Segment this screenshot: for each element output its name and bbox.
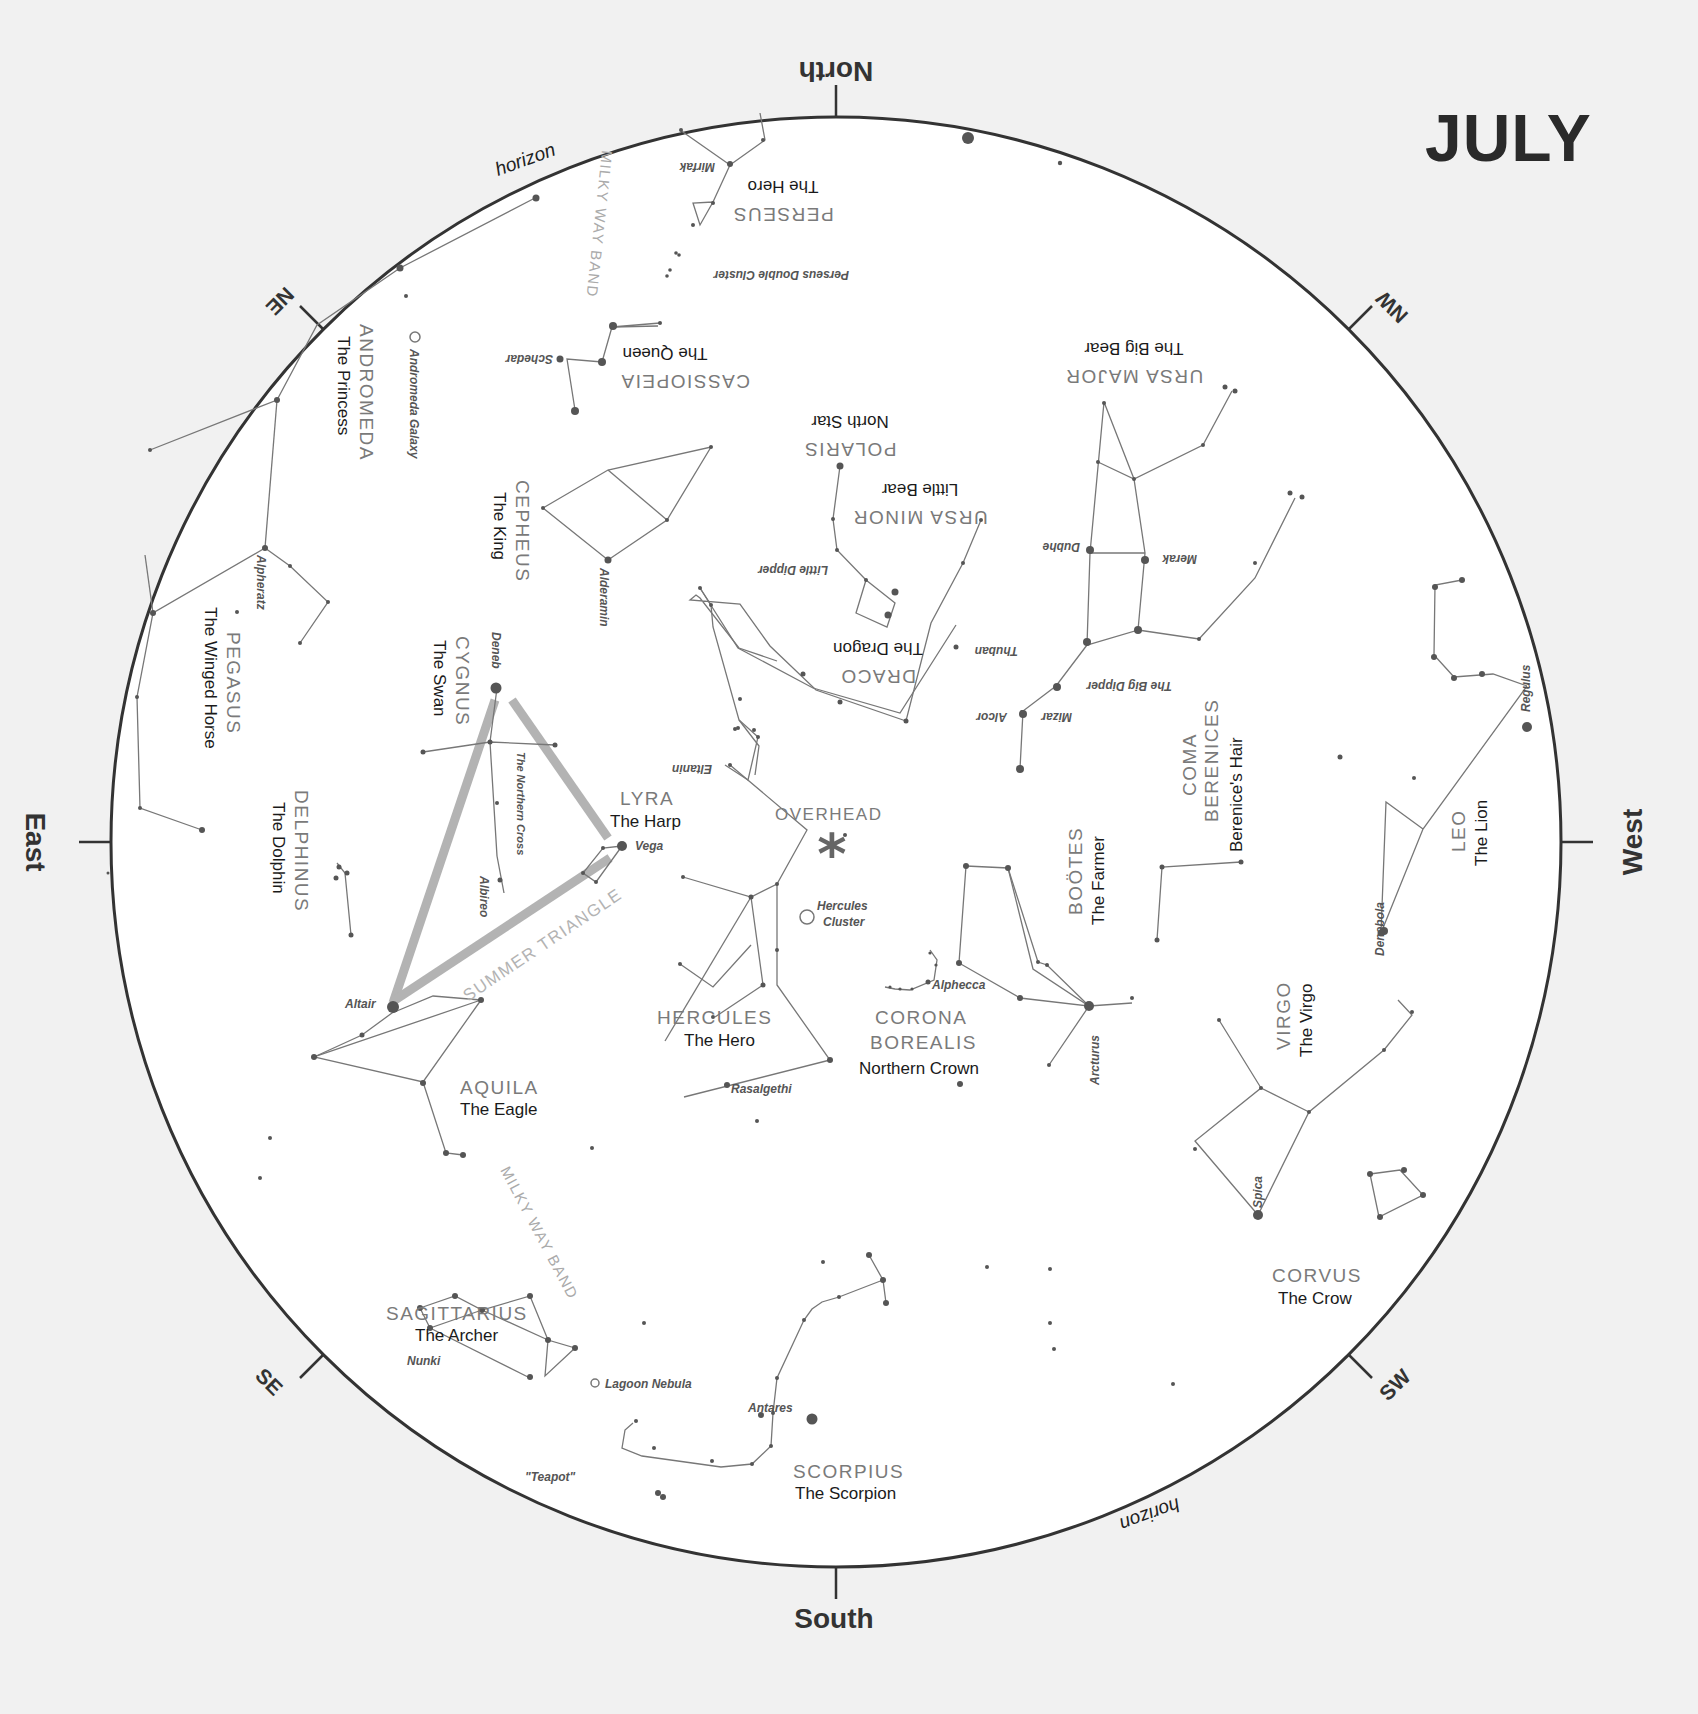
horizon-label-north: horizon (492, 139, 558, 180)
star-label-vega: Vega (635, 839, 664, 853)
month-title: JULY (1425, 100, 1592, 176)
star-label-eltanin: Eltanin (672, 762, 712, 776)
draco-name: DRACO (840, 666, 916, 687)
leo-name: LEO (1448, 809, 1469, 852)
deep-sky-andromeda-galaxy: Andromeda Galaxy (407, 348, 421, 460)
direction-nw: NW (1371, 287, 1412, 328)
corvus-name: CORVUS (1272, 1266, 1362, 1285)
ursa-minor-name: URSA MINOR (852, 507, 987, 528)
sagittarius-name: SAGITTARIUS (386, 1304, 528, 1323)
corvus-sub: The Crow (1278, 1290, 1352, 1307)
asterism-big-dipper: The Big Dipper (1085, 679, 1172, 693)
cygnus-sub: The Swan (430, 640, 449, 717)
star-label-regulus: Regulus (1519, 664, 1533, 712)
star-chart: MILKY WAY BAND MILKY WAY BAND SUMMER TRI… (0, 0, 1698, 1714)
bootes-name: BOÖTES (1065, 827, 1086, 915)
lyra-sub: The Harp (610, 813, 681, 830)
deep-sky-lagoon-nebula: Lagoon Nebula (605, 1377, 692, 1391)
deep-sky-perseus-double-cluster: Perseus Double Cluster (712, 268, 849, 282)
hercules-name: HERCULES (657, 1008, 772, 1027)
ursa-minor-sub: Little Bear (881, 480, 958, 499)
star-label-dubhe: Dubhe (1042, 540, 1080, 554)
star-label-denebola: Denebola (1373, 902, 1387, 956)
perseus-sub: The Hero (748, 177, 819, 196)
star-label-alderamin: Alderamin (597, 567, 611, 627)
star-label-spica: Spica (1251, 1176, 1265, 1208)
delphinus-sub: The Dolphin (269, 802, 288, 894)
star-label-thuban: Thuban (975, 644, 1018, 658)
polaris-sub: North Star (811, 412, 889, 431)
polaris-name: POLARIS (804, 439, 897, 460)
andromeda-sub: The Princess (334, 336, 353, 435)
ursa-major-sub: The Big Bear (1084, 339, 1184, 358)
coma-name-2: BERENICES (1201, 699, 1222, 822)
draco-sub: The Dragon (833, 639, 923, 658)
pegasus-name: PEGASUS (223, 632, 244, 734)
aquila-name: AQUILA (460, 1078, 539, 1097)
cygnus-name: CYGNUS (452, 636, 473, 726)
star-label-mirfak: Mirfak (678, 160, 715, 174)
star-label-teapot: "Teapot" (525, 1470, 576, 1484)
star-label-alphecca: Alphecca (931, 978, 986, 992)
scorpius-sub: The Scorpion (795, 1485, 896, 1502)
northern-cross-label: The Northern Cross (515, 752, 527, 855)
cassiopeia-name: CASSIOPEIA (620, 371, 750, 392)
cepheus-name: CEPHEUS (512, 480, 533, 582)
ursa-major-name: URSA MAJOR (1065, 366, 1204, 387)
coma-sub: Berenice's Hair (1227, 737, 1246, 852)
direction-north: North (799, 56, 874, 87)
asterism-little-dipper: Little Dipper (757, 563, 828, 577)
star-label-arcturus: Arcturus (1088, 1035, 1102, 1086)
sagittarius-sub: The Archer (415, 1327, 498, 1344)
direction-ne: NE (262, 283, 299, 320)
scorpius-name: SCORPIUS (793, 1462, 904, 1481)
corona-borealis-name-1: CORONA (875, 1008, 967, 1027)
bootes-sub: The Farmer (1089, 836, 1108, 925)
delphinus-name: DELPHINUS (291, 790, 312, 912)
star-label-alpheratz: Alpheratz (254, 554, 268, 610)
deep-sky-hercules-cluster-2: Cluster (823, 915, 866, 929)
star-label-schedar: Schedar (504, 352, 553, 366)
cassiopeia-sub: The Queen (622, 344, 707, 363)
perseus-name: PERSEUS (732, 204, 833, 225)
corona-borealis-name-2: BOREALIS (870, 1033, 977, 1052)
coma-name-1: COMA (1179, 733, 1200, 796)
corona-borealis-sub: Northern Crown (859, 1060, 979, 1077)
direction-se: SE (251, 1364, 287, 1400)
direction-south: South (794, 1603, 873, 1634)
star-label-altair: Altair (344, 997, 377, 1011)
aquila-sub: The Eagle (460, 1101, 538, 1118)
deep-sky-hercules-cluster-1: Hercules (817, 899, 868, 913)
star-label-nunki: Nunki (407, 1354, 441, 1368)
overhead-asterisk-icon: * (817, 821, 846, 886)
star-label-mizar: Mizar (1040, 710, 1072, 724)
star-label-alcor: Alcor (975, 710, 1008, 724)
star-label-deneb: Deneb (489, 632, 503, 669)
andromeda-name: ANDROMEDA (356, 324, 377, 461)
virgo-name: VIRGO (1273, 981, 1294, 1050)
direction-sw: SW (1375, 1364, 1415, 1404)
lyra-name: LYRA (620, 789, 674, 808)
virgo-sub: The Virgo (1297, 984, 1316, 1057)
hercules-sub: The Hero (684, 1032, 755, 1049)
star-label-rasalgethi: Rasalgethi (731, 1082, 792, 1096)
leo-sub: The Lion (1472, 800, 1491, 866)
star-label-antares: Antares (747, 1401, 793, 1415)
direction-west: West (1617, 809, 1648, 875)
cepheus-sub: The King (490, 492, 509, 560)
star-label-albireo: Albireo (477, 875, 491, 917)
pegasus-sub: The Winged Horse (201, 607, 220, 749)
direction-east: East (20, 812, 51, 871)
star-label-merak: Merak (1161, 552, 1197, 566)
overhead-label: OVERHEAD (775, 806, 882, 823)
